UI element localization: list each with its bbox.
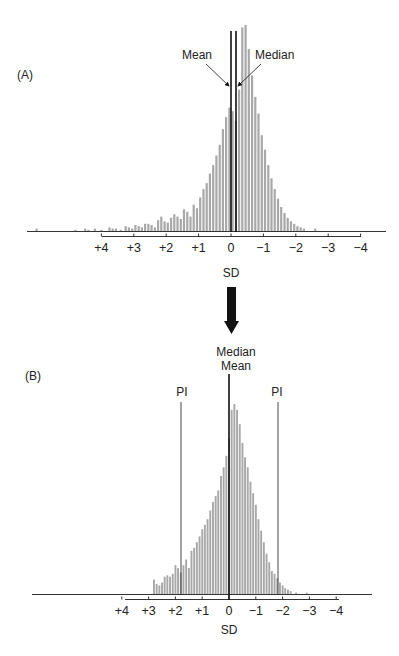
histogram-bar bbox=[255, 505, 257, 594]
histogram-bar bbox=[266, 554, 268, 594]
histogram-bar bbox=[186, 212, 188, 231]
histogram-bar bbox=[260, 531, 262, 594]
histogram-bar bbox=[284, 588, 286, 594]
histogram-bar bbox=[156, 584, 158, 594]
histogram-bar bbox=[144, 224, 146, 231]
histogram-bar bbox=[306, 593, 308, 594]
x-tick-label: −1 bbox=[249, 604, 263, 618]
histogram-bar bbox=[201, 529, 203, 594]
histogram-bar bbox=[185, 560, 187, 595]
panel-b-mean-label: Mean bbox=[221, 359, 251, 373]
histogram-bar bbox=[154, 227, 156, 231]
histogram-bar bbox=[283, 213, 285, 231]
histogram-bar bbox=[258, 519, 260, 594]
x-tick-label: +2 bbox=[159, 241, 173, 255]
histogram-bar bbox=[169, 577, 171, 594]
histogram-bar bbox=[228, 108, 230, 231]
histogram-bar bbox=[242, 443, 244, 594]
histogram-bar bbox=[303, 229, 305, 231]
down-arrow-icon bbox=[224, 287, 239, 334]
histogram-bar bbox=[244, 457, 246, 594]
histogram-bar bbox=[138, 226, 140, 231]
histogram-bar bbox=[261, 135, 263, 231]
panel-a-median-label: Median bbox=[255, 48, 294, 62]
histogram-bar bbox=[176, 217, 178, 231]
histogram-bar bbox=[180, 219, 182, 231]
histogram-bar bbox=[267, 165, 269, 231]
figure-canvas: (A) +4+3+2+10−1−2−3−4 Mean Median SD (B)… bbox=[0, 0, 399, 656]
x-tick-label: +1 bbox=[191, 241, 205, 255]
histogram-bar bbox=[280, 207, 282, 231]
histogram-bar bbox=[219, 145, 221, 231]
panel-a-x-axis-title: SD bbox=[223, 266, 240, 280]
histogram-bar bbox=[295, 593, 297, 594]
panel-b: (B) +4+3+2+10−1−2−3−4 Median Mean PI PI … bbox=[25, 345, 372, 637]
histogram-bar bbox=[172, 574, 174, 594]
histogram-bar bbox=[290, 591, 292, 594]
x-tick-label: −3 bbox=[302, 604, 316, 618]
panel-b-label: (B) bbox=[25, 369, 41, 383]
histogram-bar bbox=[287, 590, 289, 594]
x-tick-label: 0 bbox=[226, 604, 233, 618]
histogram-bar bbox=[131, 229, 133, 231]
histogram-bar bbox=[212, 165, 214, 231]
x-tick-label: −2 bbox=[289, 241, 303, 255]
histogram-bar bbox=[215, 156, 217, 232]
histogram-bar bbox=[196, 208, 198, 231]
histogram-bar bbox=[177, 568, 179, 594]
x-tick-label: +3 bbox=[127, 241, 141, 255]
histogram-bar bbox=[231, 410, 233, 594]
histogram-bar bbox=[204, 525, 206, 594]
x-tick-label: +4 bbox=[115, 604, 129, 618]
histogram-bar bbox=[250, 482, 252, 594]
histogram-bar bbox=[300, 227, 302, 231]
histogram-bar bbox=[158, 585, 160, 594]
histogram-bar bbox=[112, 229, 114, 231]
histogram-bar bbox=[134, 225, 136, 231]
histogram-bar bbox=[217, 490, 219, 594]
histogram-bar bbox=[207, 519, 209, 594]
histogram-bar bbox=[167, 223, 169, 231]
panel-b-pi-left-label: PI bbox=[176, 385, 187, 399]
histogram-bar bbox=[74, 230, 76, 231]
histogram-bar bbox=[125, 226, 127, 231]
histogram-bar bbox=[199, 536, 201, 594]
panel-b-pi-right-label: PI bbox=[271, 385, 282, 399]
histogram-bar bbox=[157, 220, 159, 231]
x-tick-label: −2 bbox=[275, 604, 289, 618]
histogram-bar bbox=[277, 199, 279, 231]
histogram-bar bbox=[263, 542, 265, 594]
histogram-bar bbox=[164, 577, 166, 594]
histogram-bar bbox=[245, 25, 247, 231]
histogram-bar bbox=[252, 493, 254, 594]
histogram-bar bbox=[270, 178, 272, 231]
histogram-bar bbox=[274, 574, 276, 594]
x-tick-label: −3 bbox=[321, 241, 335, 255]
histogram-bar bbox=[128, 227, 130, 231]
histogram-bar bbox=[268, 562, 270, 594]
histogram-bar bbox=[241, 27, 243, 231]
histogram-bar bbox=[271, 571, 273, 594]
histogram-bar bbox=[183, 565, 185, 594]
x-tick-label: +3 bbox=[141, 604, 155, 618]
panel-a-label: (A) bbox=[17, 68, 33, 82]
histogram-bar bbox=[296, 226, 298, 231]
histogram-bar bbox=[238, 90, 240, 231]
histogram-bar bbox=[166, 575, 168, 594]
histogram-bar bbox=[225, 456, 227, 594]
histogram-bar bbox=[193, 548, 195, 594]
x-tick-label: +4 bbox=[94, 241, 108, 255]
panel-a-mean-label: Mean bbox=[182, 48, 212, 62]
histogram-bar bbox=[220, 476, 222, 594]
histogram-bar bbox=[314, 229, 316, 231]
histogram-bar bbox=[257, 114, 259, 231]
histogram-bar bbox=[290, 221, 292, 231]
histogram-bar bbox=[188, 568, 190, 594]
histogram-bar bbox=[212, 502, 214, 594]
panel-a: (A) +4+3+2+10−1−2−3−4 Mean Median SD bbox=[17, 25, 386, 280]
histogram-bar bbox=[94, 229, 96, 231]
panel-b-histogram-bars bbox=[153, 404, 308, 594]
histogram-bar bbox=[239, 424, 241, 594]
histogram-bar bbox=[196, 542, 198, 594]
histogram-bar bbox=[232, 111, 234, 231]
